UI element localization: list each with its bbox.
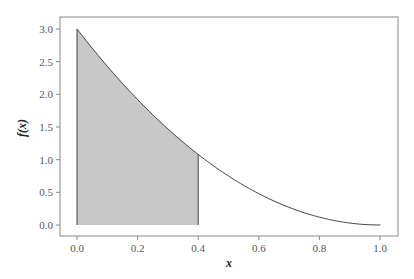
x-tick-label: 0.4 <box>191 242 205 254</box>
x-tick-label: 0.0 <box>70 242 84 254</box>
x-axis-label: x <box>225 256 232 270</box>
y-axis: 0.00.51.01.52.02.53.0 <box>39 23 60 231</box>
x-tick-label: 0.6 <box>252 242 266 254</box>
y-tick-label: 0.5 <box>39 186 53 198</box>
density-chart: 0.00.51.01.52.02.53.0 0.00.20.40.60.81.0… <box>0 0 414 279</box>
shaded-area <box>77 29 198 225</box>
x-axis: 0.00.20.40.60.81.0 <box>70 236 387 254</box>
y-tick-label: 2.5 <box>39 56 53 68</box>
y-tick-label: 0.0 <box>39 219 53 231</box>
y-tick-label: 2.0 <box>39 88 53 100</box>
y-tick-label: 1.5 <box>39 121 53 133</box>
y-tick-label: 1.0 <box>39 154 53 166</box>
y-axis-label: f(x) <box>15 119 29 137</box>
x-tick-label: 0.8 <box>313 242 327 254</box>
y-tick-label: 3.0 <box>39 23 53 35</box>
x-tick-label: 0.2 <box>131 242 145 254</box>
x-tick-label: 1.0 <box>373 242 387 254</box>
